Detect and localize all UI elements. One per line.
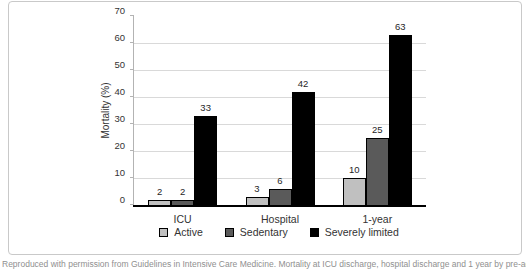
y-tick-label: 0 [120, 194, 125, 205]
x-category-label: 1-year [362, 213, 392, 225]
y-tick-mark [130, 42, 134, 43]
bar-value-label: 2 [157, 186, 162, 197]
y-tick-mark [130, 96, 134, 97]
bar-value-label: 42 [298, 78, 309, 89]
bar-severely-limited [292, 92, 315, 205]
y-tick-mark [130, 15, 134, 16]
y-tick-mark [130, 177, 134, 178]
legend-item-severely-limited: Severely limited [310, 226, 399, 238]
bar-severely-limited [194, 116, 217, 205]
bar-chart-plot-area: 0102030405060702233ICU3642Hospital102563… [133, 16, 426, 205]
bar-value-label: 63 [395, 21, 406, 32]
figure-frame: Mortality (%) 0102030405060702233ICU3642… [8, 1, 522, 255]
gridline [134, 70, 426, 71]
legend-swatch-icon [310, 228, 319, 237]
y-tick-label: 60 [114, 32, 125, 43]
legend-label: Severely limited [325, 226, 399, 238]
y-tick-label: 50 [114, 59, 125, 70]
legend-item-active: Active [159, 226, 203, 238]
legend: ActiveSedentarySeverely limited [133, 226, 425, 238]
legend-item-sedentary: Sedentary [225, 226, 288, 238]
gridline [134, 43, 426, 44]
gridline [134, 97, 426, 98]
y-tick-label: 70 [114, 5, 125, 16]
x-axis-baseline [133, 205, 426, 207]
y-axis-title: Mortality (%) [97, 16, 113, 205]
legend-swatch-icon [225, 228, 234, 237]
bar-active [343, 178, 366, 205]
legend-label: Active [174, 226, 203, 238]
bar-sedentary [171, 200, 194, 205]
bar-value-label: 2 [180, 186, 185, 197]
bar-value-label: 3 [254, 183, 259, 194]
y-tick-label: 10 [114, 167, 125, 178]
bar-sedentary [269, 189, 292, 205]
y-tick-mark [130, 150, 134, 151]
x-category-label: ICU [174, 213, 192, 225]
y-tick-label: 40 [114, 86, 125, 97]
y-tick-label: 20 [114, 140, 125, 151]
legend-swatch-icon [159, 228, 168, 237]
bar-value-label: 25 [372, 124, 383, 135]
x-category-label: Hospital [261, 213, 299, 225]
y-tick-mark [130, 123, 134, 124]
bar-active [148, 200, 171, 205]
legend-label: Sedentary [240, 226, 288, 238]
y-tick-mark [130, 69, 134, 70]
source-caption-clipped: Reproduced with permission from Guidelin… [2, 259, 526, 269]
bar-active [246, 197, 269, 205]
y-axis-title-text: Mortality (%) [100, 82, 111, 138]
bar-value-label: 33 [200, 102, 211, 113]
bar-sedentary [366, 138, 389, 206]
bar-severely-limited [389, 35, 412, 205]
bar-value-label: 10 [349, 164, 360, 175]
bar-value-label: 6 [277, 175, 282, 186]
y-tick-mark [130, 204, 134, 205]
y-tick-label: 30 [114, 113, 125, 124]
